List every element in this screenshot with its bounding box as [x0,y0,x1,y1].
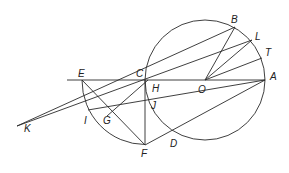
label-g: G [103,115,111,126]
label-a: A [269,71,277,82]
line-ef [82,80,145,145]
line-ol [205,40,252,80]
label-d: D [170,138,177,149]
label-l: L [255,31,261,42]
geometry-diagram: B L T A O C H E J I G F D K [0,0,289,173]
label-b: B [231,14,238,25]
label-j: J [150,100,157,111]
label-i: I [84,115,87,126]
label-h: H [152,83,160,94]
line-ob [205,27,235,80]
label-f: F [141,148,148,159]
line-ot [205,58,262,80]
label-k: K [24,123,32,134]
line-kl [17,40,252,126]
label-e: E [78,68,85,79]
line-kb [17,27,235,126]
line-ia [88,80,265,110]
label-o: O [198,84,206,95]
label-c: C [136,68,144,79]
label-t: T [265,47,272,58]
